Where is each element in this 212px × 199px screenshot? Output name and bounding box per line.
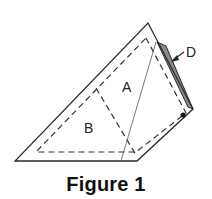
- paper-outline: [15, 23, 193, 161]
- folded-paper-diagram: A B D: [0, 0, 212, 199]
- label-b: B: [84, 120, 93, 136]
- label-a: A: [122, 79, 132, 95]
- label-d: D: [186, 44, 196, 60]
- dashed-divider-b: [96, 88, 136, 155]
- fold-line: [121, 42, 156, 161]
- figure-caption: Figure 1: [0, 173, 212, 196]
- corner-dot: [181, 113, 186, 118]
